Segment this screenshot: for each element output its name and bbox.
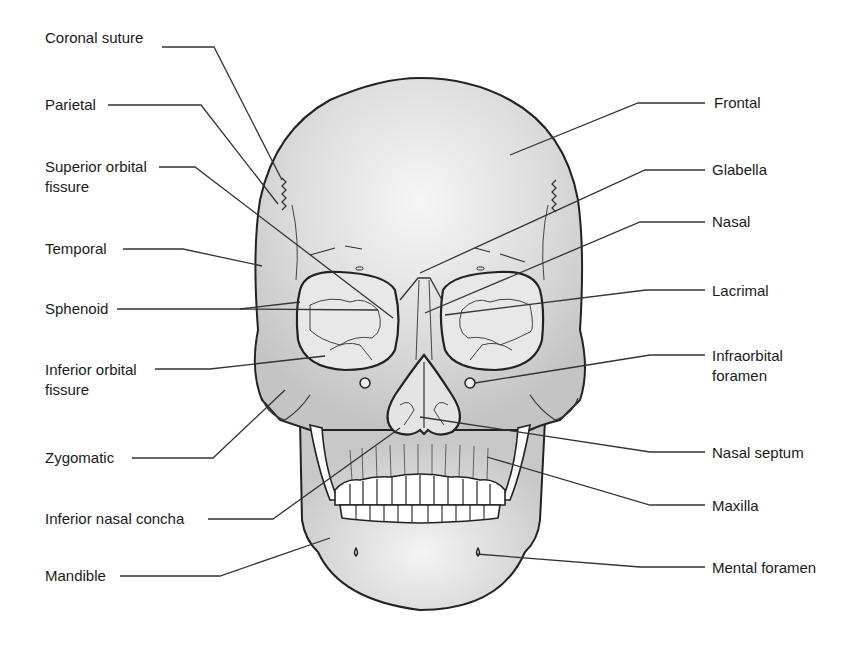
- orbit-left: [297, 272, 399, 370]
- label-maxilla: Maxilla: [712, 496, 759, 516]
- leader-line-coronal-suture: [162, 47, 282, 180]
- label-superior-orbital-fissure: Superior orbital fissure: [45, 157, 147, 197]
- lower-teeth: [340, 505, 500, 523]
- infraorbital-foramen-right: [465, 378, 475, 388]
- skull-diagram: Coronal suture Parietal Superior orbital…: [0, 0, 867, 651]
- label-mandible: Mandible: [45, 566, 106, 586]
- label-infraorbital-foramen: Infraorbital foramen: [712, 346, 783, 386]
- label-parietal: Parietal: [45, 95, 96, 115]
- leader-line-sphenoid: [117, 309, 378, 310]
- label-inferior-orbital-fissure: Inferior orbital fissure: [45, 360, 137, 400]
- label-nasal-septum: Nasal septum: [712, 443, 804, 463]
- label-nasal: Nasal: [712, 212, 750, 232]
- label-zygomatic: Zygomatic: [45, 448, 114, 468]
- label-mental-foramen: Mental foramen: [712, 558, 816, 578]
- label-coronal-suture: Coronal suture: [45, 28, 143, 48]
- label-inferior-nasal-concha: Inferior nasal concha: [45, 509, 184, 529]
- label-glabella: Glabella: [712, 160, 767, 180]
- infraorbital-foramen-left: [360, 378, 370, 388]
- label-lacrimal: Lacrimal: [712, 281, 769, 301]
- orbit-right: [441, 272, 543, 370]
- leader-line-temporal: [123, 249, 262, 266]
- label-sphenoid: Sphenoid: [45, 299, 108, 319]
- label-frontal: Frontal: [714, 93, 761, 113]
- label-temporal: Temporal: [45, 239, 107, 259]
- leader-line-mandible: [120, 538, 330, 576]
